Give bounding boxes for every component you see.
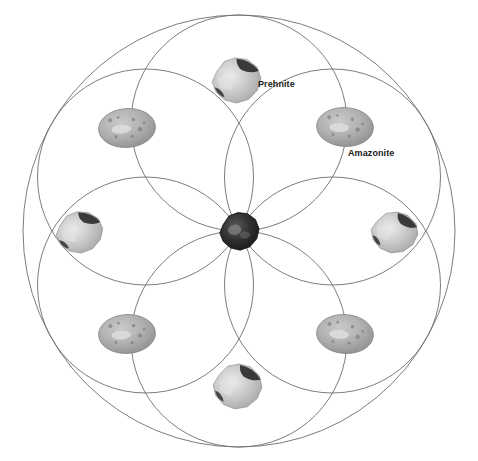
upper-left-stone[interactable] bbox=[97, 106, 158, 150]
upper-left-stone-glyph bbox=[97, 106, 158, 150]
right-stone[interactable] bbox=[367, 208, 421, 257]
upper-right-stone[interactable] bbox=[315, 106, 375, 149]
bottom-stone-glyph bbox=[210, 361, 264, 412]
stone-label-prehnite: Prehnite bbox=[258, 80, 295, 89]
crystal-grid-diagram: PrehniteAmazonite bbox=[0, 0, 478, 461]
bottom-stone[interactable] bbox=[210, 361, 264, 412]
left-stone-glyph bbox=[51, 207, 107, 258]
lower-left-stone[interactable] bbox=[97, 313, 157, 356]
lower-right-stone-glyph bbox=[315, 312, 376, 356]
upper-right-stone-glyph bbox=[315, 106, 375, 149]
right-stone-glyph bbox=[367, 208, 421, 257]
top-stone[interactable] bbox=[208, 54, 263, 106]
stone-label-amazonite: Amazonite bbox=[348, 149, 394, 158]
top-stone-glyph bbox=[208, 54, 263, 106]
left-stone[interactable] bbox=[51, 207, 107, 258]
center-stone[interactable] bbox=[216, 209, 262, 253]
lower-left-stone-glyph bbox=[97, 313, 157, 356]
lower-right-stone[interactable] bbox=[315, 312, 376, 356]
center-stone-glyph bbox=[216, 209, 262, 253]
